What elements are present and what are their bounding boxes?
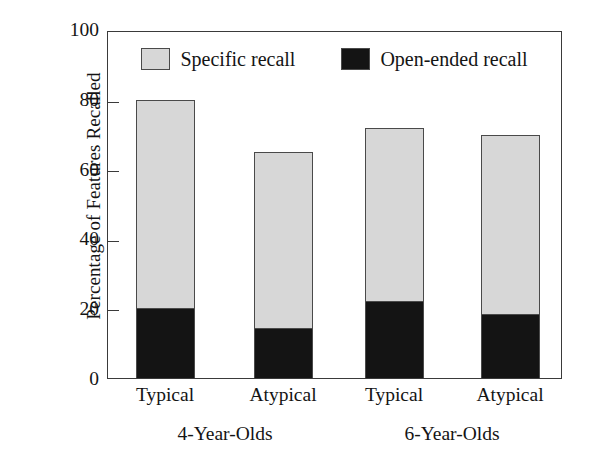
bar-segment-specific-recall: [365, 128, 424, 302]
legend-entry-open-ended-recall: Open-ended recall: [341, 48, 527, 70]
bar-4yo-atypical: [254, 152, 313, 378]
bar-4yo-typical: [136, 100, 195, 378]
stacked-bar-chart: Percentage of Features Recalled 100 80 6…: [0, 0, 604, 468]
bar-segment-open-ended-recall: [136, 309, 195, 379]
y-tick-mark-40: [108, 241, 119, 242]
bar-segment-specific-recall: [481, 135, 540, 316]
bar-segment-specific-recall: [254, 152, 313, 329]
y-tick-label-80: 80: [39, 90, 99, 110]
bar-segment-specific-recall: [136, 100, 195, 309]
legend-label-open-ended-recall: Open-ended recall: [380, 49, 527, 69]
legend: Specific recall Open-ended recall: [108, 48, 561, 70]
y-axis-title: Percentage of Features Recalled: [83, 6, 105, 386]
group-label-4-year-olds: 4-Year-Olds: [115, 424, 335, 444]
y-tick-label-100: 100: [39, 20, 99, 40]
y-tick-mark-80: [108, 102, 119, 103]
bar-segment-open-ended-recall: [254, 329, 313, 378]
legend-entry-specific-recall: Specific recall: [141, 48, 295, 70]
bar-segment-open-ended-recall: [365, 302, 424, 379]
x-tick-label-6yo-typical: Typical: [334, 385, 454, 405]
y-tick-label-40: 40: [39, 229, 99, 249]
group-label-6-year-olds: 6-Year-Olds: [342, 424, 562, 444]
light-gray-swatch-icon: [141, 48, 170, 70]
legend-label-specific-recall: Specific recall: [180, 49, 295, 69]
x-tick-label-4yo-typical: Typical: [105, 385, 225, 405]
bar-6yo-typical: [365, 128, 424, 379]
y-tick-label-0: 0: [39, 369, 99, 389]
x-tick-label-4yo-atypical: Atypical: [223, 385, 343, 405]
bar-6yo-atypical: [481, 135, 540, 379]
y-tick-label-60: 60: [39, 160, 99, 180]
bar-segment-open-ended-recall: [481, 315, 540, 378]
black-swatch-icon: [341, 48, 370, 70]
y-tick-label-20: 20: [39, 299, 99, 319]
plot-area: Specific recall Open-ended recall: [107, 31, 562, 379]
y-tick-mark-60: [108, 171, 119, 172]
x-tick-label-6yo-atypical: Atypical: [450, 385, 570, 405]
y-tick-mark-20: [108, 310, 119, 311]
